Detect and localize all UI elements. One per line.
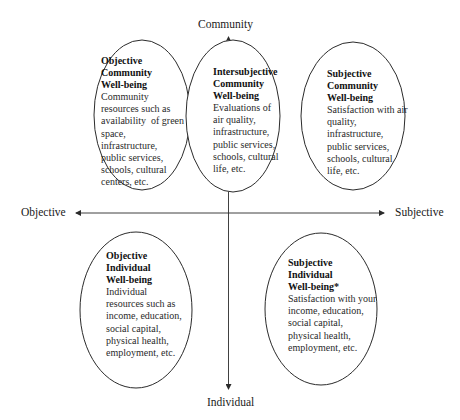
diagram-canvas [0, 0, 460, 420]
bubble-description: Individual resources such as income, edu… [106, 286, 182, 359]
desc-line: availability of green [101, 115, 184, 127]
title-line: Objective [101, 55, 184, 67]
bubble-title: Subjective Individual Well-being* [288, 257, 376, 293]
desc-line: Satisfaction with air [327, 104, 408, 116]
desc-line: Individual [106, 286, 182, 298]
desc-line: infrastructure, [101, 140, 184, 152]
bubble-title: Subjective Community Well-being [327, 68, 408, 104]
desc-line: physical health, [288, 330, 376, 342]
bubble-subjective-community: Subjective Community Well-being Satisfac… [327, 68, 408, 177]
desc-line: centers, etc. [101, 176, 184, 188]
desc-line: social capital, [106, 323, 182, 335]
title-line: Well-being* [288, 281, 376, 293]
bubble-title: Objective Individual Well-being [106, 250, 182, 286]
axis-label-subjective: Subjective [395, 207, 444, 219]
desc-line: resources such as [101, 103, 184, 115]
axis-label-community: Community [198, 19, 253, 31]
axis-label-individual: Individual [207, 397, 254, 409]
title-line: Community [327, 80, 408, 92]
desc-line: public services, [213, 139, 279, 151]
title-line: Well-being [106, 274, 182, 286]
desc-line: resources such as [106, 298, 182, 310]
title-line: Individual [106, 262, 182, 274]
title-line: Individual [288, 269, 376, 281]
title-line: Well-being [213, 90, 279, 102]
bubble-description: Evaluations of air quality, infrastructu… [213, 102, 279, 175]
title-line: Community [101, 67, 184, 79]
desc-line: social capital, [288, 317, 376, 329]
bubble-title: Objective Community Well-being [101, 55, 184, 91]
desc-line: schools, cultural [101, 164, 184, 176]
title-line: Subjective [288, 257, 376, 269]
bubble-description: Community resources such as availability… [101, 91, 184, 188]
desc-line: infrastructure, [327, 128, 408, 140]
desc-line: life, etc. [213, 163, 279, 175]
desc-line: Evaluations of [213, 102, 279, 114]
bubble-objective-community: Objective Community Well-being Community… [101, 55, 184, 188]
title-line: Well-being [101, 79, 184, 91]
title-line: Objective [106, 250, 182, 262]
desc-line: quality, [327, 116, 408, 128]
desc-line: space, [101, 128, 184, 140]
desc-line: physical health, [106, 335, 182, 347]
desc-line: income, education, [106, 310, 182, 322]
desc-line: public services, [327, 141, 408, 153]
desc-line: air quality, [213, 114, 279, 126]
desc-line: schools, cultural [327, 153, 408, 165]
desc-line: income, education, [288, 305, 376, 317]
axis-label-objective: Objective [21, 207, 66, 219]
bubble-objective-individual: Objective Individual Well-being Individu… [106, 250, 182, 359]
title-line: Well-being [327, 92, 408, 104]
title-line: Subjective [327, 68, 408, 80]
bubble-subjective-individual: Subjective Individual Well-being* Satisf… [288, 257, 376, 354]
desc-line: infrastructure, [213, 126, 279, 138]
bubble-description: Satisfaction with your income, education… [288, 293, 376, 353]
desc-line: public services, [101, 152, 184, 164]
bubble-title: Intersubjective Community Well-being [213, 66, 279, 102]
desc-line: employment, etc. [106, 347, 182, 359]
desc-line: life, etc. [327, 165, 408, 177]
desc-line: Satisfaction with your [288, 293, 376, 305]
title-line: Intersubjective [213, 66, 279, 78]
title-line: Community [213, 78, 279, 90]
desc-line: Community [101, 91, 184, 103]
bubble-intersubjective-community: Intersubjective Community Well-being Eva… [213, 66, 279, 175]
bubble-description: Satisfaction with air quality, infrastru… [327, 104, 408, 177]
desc-line: schools, cultural [213, 151, 279, 163]
desc-line: employment, etc. [288, 342, 376, 354]
